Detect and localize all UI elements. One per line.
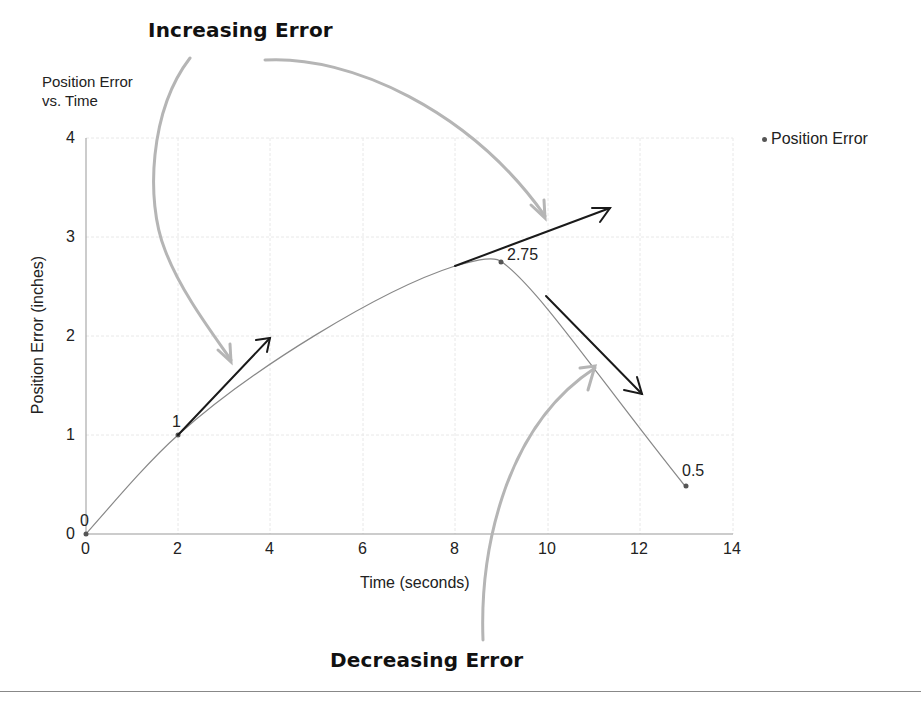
point-label-1: 1 — [172, 413, 181, 431]
point-label-3: 0.5 — [682, 462, 704, 480]
y-tick-0: 0 — [66, 525, 75, 543]
bottom-divider — [0, 691, 921, 692]
x-tick-6: 6 — [358, 540, 367, 558]
data-points — [84, 260, 689, 537]
x-tick-14: 14 — [723, 540, 741, 558]
y-tick-4: 4 — [66, 129, 75, 147]
point-label-2: 2.75 — [507, 246, 538, 264]
annotation-arrows — [154, 58, 595, 640]
y-tick-1: 1 — [66, 426, 75, 444]
grid — [86, 138, 733, 534]
tangent-arrows — [178, 208, 642, 435]
x-tick-8: 8 — [450, 540, 459, 558]
x-tick-2: 2 — [173, 540, 182, 558]
x-tick-4: 4 — [265, 540, 274, 558]
chart-plot — [0, 0, 921, 701]
y-axis-label: Position Error (inches) — [29, 255, 47, 415]
x-tick-0: 0 — [81, 540, 90, 558]
point-label-0: 0 — [80, 512, 89, 530]
position-error-curve — [86, 259, 685, 534]
x-axis-label: Time (seconds) — [360, 574, 470, 592]
x-tick-12: 12 — [630, 540, 648, 558]
y-tick-3: 3 — [66, 228, 75, 246]
y-tick-2: 2 — [66, 327, 75, 345]
x-tick-10: 10 — [538, 540, 556, 558]
